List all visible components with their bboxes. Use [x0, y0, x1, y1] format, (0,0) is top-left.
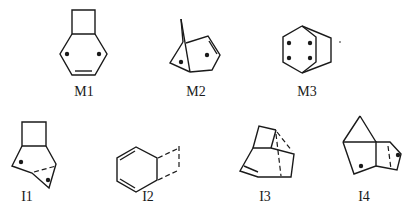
i2-six-ring [117, 147, 157, 192]
m2-right-ring [186, 36, 220, 72]
m3-radical-dot [308, 56, 312, 60]
i1-radical-dot [46, 178, 50, 182]
i4-label: I4 [358, 189, 370, 204]
m2-radical-dot [179, 60, 183, 64]
i3-ring [240, 148, 294, 177]
m1-label: M1 [74, 84, 93, 99]
i3-label: I3 [259, 189, 271, 204]
m1-cyclobutane [72, 10, 95, 34]
i1-ring [12, 146, 56, 188]
i4-partial-bond [388, 146, 391, 169]
structure-m2: M2 [170, 19, 220, 99]
i1-partial-bond [34, 166, 56, 172]
structure-i4: I4 [343, 116, 401, 204]
m3-radical-dot [287, 41, 291, 45]
m3-stray-mark [339, 41, 341, 43]
structure-i1: I1 [12, 122, 56, 204]
structure-m1: M1 [60, 10, 107, 99]
i3-double-bond [244, 166, 258, 172]
i4-radical-dot [396, 153, 400, 157]
structures-diagram: M1 M2 M3 I1 I2 [0, 0, 414, 206]
i4-left-ring [343, 142, 376, 174]
i3-bond [271, 130, 276, 148]
structure-i2: I2 [117, 146, 179, 204]
i4-radical-dot [359, 164, 363, 168]
i1-label: I1 [21, 189, 33, 204]
i2-partial-bond [158, 148, 179, 158]
i1-cyclobutane [22, 122, 46, 146]
m2-label: M2 [186, 84, 205, 99]
m2-bridge-left [181, 19, 183, 42]
i3-partial-bond [277, 132, 292, 151]
i1-radical-dot [19, 160, 23, 164]
m3-inner-bridge [302, 26, 316, 73]
m3-left-ring [283, 26, 302, 73]
structure-i3: I3 [240, 126, 294, 204]
structure-m3: M3 [283, 26, 341, 99]
m3-label: M3 [297, 84, 316, 99]
i2-partial-bond [158, 170, 179, 180]
m1-radical-dot [65, 52, 69, 56]
i2-label: I2 [142, 189, 154, 204]
m1-radical-dot [97, 52, 101, 56]
m3-radical-dot [308, 41, 312, 45]
i4-apex-bridge [343, 116, 376, 142]
m3-radical-dot [287, 56, 291, 60]
i3-partial-bond [276, 134, 281, 176]
m2-radical-dot [205, 53, 209, 57]
